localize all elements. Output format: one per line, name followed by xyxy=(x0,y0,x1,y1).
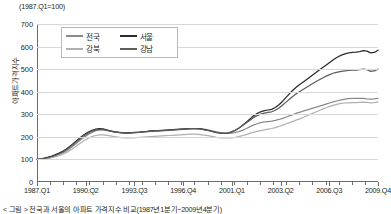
x-tick xyxy=(181,182,182,185)
x-tick-label: 2001.Q1 xyxy=(219,186,245,195)
grid-line xyxy=(37,114,378,115)
x-tick xyxy=(116,182,117,185)
x-tick xyxy=(273,182,274,185)
x-tick xyxy=(352,182,353,185)
x-tick xyxy=(63,182,64,185)
x-tick-label: 1993.Q3 xyxy=(122,186,148,195)
x-tick-label: 2003.Q2 xyxy=(268,186,294,195)
y-tick-label: 500 xyxy=(21,65,33,74)
legend-item-강북[interactable]: 강북 xyxy=(66,43,120,54)
x-tick-label: 1990.Q2 xyxy=(73,186,99,195)
x-tick-label: 1987.Q1 xyxy=(24,186,50,195)
x-tick-label: 2009.Q4 xyxy=(365,186,391,195)
x-tick xyxy=(221,182,222,185)
legend-swatch-icon xyxy=(66,35,83,37)
grid-line xyxy=(37,159,378,160)
unit-note: (1987.Q1=100) xyxy=(19,2,65,11)
grid-line xyxy=(37,69,378,70)
x-tick xyxy=(50,182,51,185)
x-tick xyxy=(76,182,77,185)
y-tick-label: 400 xyxy=(21,87,33,96)
legend: 전국서울강북강남 xyxy=(61,27,178,58)
legend-item-강남[interactable]: 강남 xyxy=(120,43,174,54)
grid-line xyxy=(37,24,378,25)
x-tick xyxy=(155,182,156,185)
legend-swatch-icon xyxy=(66,48,83,50)
x-tick xyxy=(234,182,235,185)
x-tick xyxy=(89,182,90,185)
legend-item-전국[interactable]: 전국 xyxy=(66,31,120,42)
x-tick xyxy=(247,182,248,185)
y-axis-tick-labels: 7006005004003002001000 xyxy=(0,24,33,182)
legend-item-서울[interactable]: 서울 xyxy=(120,31,174,42)
series-line-서울 xyxy=(37,50,378,159)
x-tick xyxy=(286,182,287,185)
x-tick xyxy=(312,182,313,185)
x-tick xyxy=(142,182,143,185)
y-tick-label: 300 xyxy=(21,110,33,119)
x-axis-tick-labels: 1987.Q11990.Q21993.Q31996.Q42001.Q12003.… xyxy=(0,186,382,198)
x-tick xyxy=(365,182,366,185)
x-tick xyxy=(129,182,130,185)
legend-label: 서울 xyxy=(140,31,153,42)
y-tick-label: 600 xyxy=(21,42,33,51)
x-tick xyxy=(299,182,300,185)
grid-line xyxy=(37,137,378,138)
legend-label: 전국 xyxy=(86,31,99,42)
figure-caption: < 그림 > 전국과 서울의 아파트 가격지수 비교(1987년1분기~2009… xyxy=(3,204,222,214)
x-tick xyxy=(103,182,104,185)
legend-label: 강남 xyxy=(140,43,153,54)
legend-swatch-icon xyxy=(120,48,137,50)
x-tick xyxy=(260,182,261,185)
x-tick xyxy=(339,182,340,185)
x-tick xyxy=(194,182,195,185)
x-tick xyxy=(168,182,169,185)
x-tick-label: 1996.Q4 xyxy=(170,186,196,195)
y-tick-label: 700 xyxy=(21,20,33,29)
x-tick-label: 2006.Q3 xyxy=(316,186,342,195)
legend-swatch-icon xyxy=(120,35,137,37)
y-tick-label: 200 xyxy=(21,132,33,141)
grid-line xyxy=(37,92,378,93)
x-tick xyxy=(208,182,209,185)
legend-label: 강북 xyxy=(86,43,99,54)
y-tick-label: 100 xyxy=(21,155,33,164)
x-tick xyxy=(326,182,327,185)
